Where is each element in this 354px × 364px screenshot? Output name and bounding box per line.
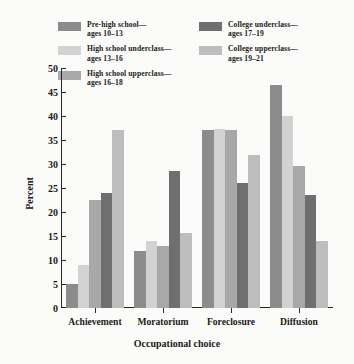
legend-label-line2: ages 10–13 [87, 29, 146, 38]
x-axis-title: Occupational choice [0, 338, 354, 349]
y-tick-label: 20 [36, 207, 58, 218]
legend-column-right: College underclass—ages 17–19College upp… [199, 20, 298, 69]
legend-entry: College underclass—ages 17–19 [199, 20, 298, 38]
bar [282, 116, 294, 308]
y-tick-label: 35 [36, 135, 58, 146]
x-tick-label: Diffusion [265, 316, 333, 327]
x-tick-label: Foreclosure [197, 316, 265, 327]
y-tick-label: 15 [36, 231, 58, 242]
legend-swatch-icon [58, 46, 81, 55]
bar [237, 183, 249, 308]
x-tick-mark [95, 308, 96, 313]
bar [169, 171, 181, 308]
y-tick-mark [61, 260, 66, 261]
chart-figure: Pre-high school—ages 10–13High school un… [0, 0, 354, 364]
bar-group [265, 68, 333, 308]
y-tick-label: 50 [36, 63, 58, 74]
y-tick-mark [61, 284, 66, 285]
bar-group [129, 68, 197, 308]
bar [305, 195, 317, 308]
x-axis-labels: AchievementMoratoriumForeclosureDiffusio… [61, 316, 333, 327]
bar [157, 246, 169, 308]
legend-entry: College upperclass—ages 19–21 [199, 44, 298, 62]
bar-group [61, 68, 129, 308]
bar [101, 193, 113, 308]
y-tick-mark [61, 68, 66, 69]
x-axis-ticks [61, 308, 333, 313]
y-axis-title: Percent [24, 149, 35, 239]
y-tick-label: 10 [36, 255, 58, 266]
x-tick-label: Achievement [61, 316, 129, 327]
legend-swatch-icon [58, 22, 81, 31]
legend-label: College underclass—ages 17–19 [228, 20, 298, 38]
bar [225, 130, 237, 308]
bar [202, 130, 214, 308]
y-tick-mark [61, 116, 66, 117]
x-tick-cell [61, 308, 129, 313]
legend-label-line1: College upperclass— [228, 44, 298, 53]
y-tick-label: 25 [36, 183, 58, 194]
x-tick-mark [163, 308, 164, 313]
bar [214, 129, 226, 308]
y-tick-mark [61, 236, 66, 237]
y-tick-mark [61, 164, 66, 165]
bar [248, 155, 260, 308]
legend-entry: High school underclass—ages 13–16 [58, 44, 171, 62]
legend-label-line2: ages 13–16 [87, 54, 171, 63]
legend-entry: Pre-high school—ages 10–13 [58, 20, 171, 38]
plot-area [61, 68, 333, 308]
bar [293, 166, 305, 308]
bar [66, 284, 78, 308]
bar [112, 130, 124, 308]
legend-label-line1: High school underclass— [87, 44, 171, 53]
x-tick-mark [299, 308, 300, 313]
bar [78, 265, 90, 308]
y-tick-mark [61, 140, 66, 141]
y-tick-mark [61, 92, 66, 93]
bar [89, 200, 101, 308]
bar [146, 241, 158, 308]
legend-label-line1: Pre-high school— [87, 20, 146, 29]
legend-label: Pre-high school—ages 10–13 [87, 20, 146, 38]
legend-label-line2: ages 17–19 [228, 29, 298, 38]
y-tick-label: 45 [36, 87, 58, 98]
legend-label-line2: ages 19–21 [228, 54, 298, 63]
x-tick-cell [129, 308, 197, 313]
bar [134, 251, 146, 308]
legend-swatch-icon [199, 46, 222, 55]
bar-group [197, 68, 265, 308]
y-tick-mark [61, 212, 66, 213]
x-tick-label: Moratorium [129, 316, 197, 327]
x-tick-cell [265, 308, 333, 313]
bar [270, 85, 282, 308]
legend-label: College upperclass—ages 19–21 [228, 44, 298, 62]
y-tick-label: 30 [36, 159, 58, 170]
x-tick-cell [197, 308, 265, 313]
y-tick-label: 0 [36, 303, 58, 314]
y-tick-mark [61, 188, 66, 189]
bar [180, 233, 192, 308]
legend-label: High school underclass—ages 13–16 [87, 44, 171, 62]
legend-swatch-icon [199, 22, 222, 31]
bar [316, 241, 328, 308]
y-tick-label: 40 [36, 111, 58, 122]
legend-label-line1: College underclass— [228, 20, 298, 29]
x-tick-mark [231, 308, 232, 313]
y-tick-label: 5 [36, 279, 58, 290]
